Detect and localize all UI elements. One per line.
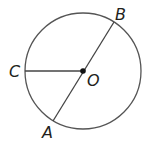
circle-diagram: B C O A: [0, 0, 151, 143]
center-point: [80, 68, 86, 74]
label-b: B: [115, 5, 126, 24]
label-c: C: [9, 62, 21, 81]
label-a: A: [41, 123, 53, 142]
label-o: O: [87, 71, 100, 90]
